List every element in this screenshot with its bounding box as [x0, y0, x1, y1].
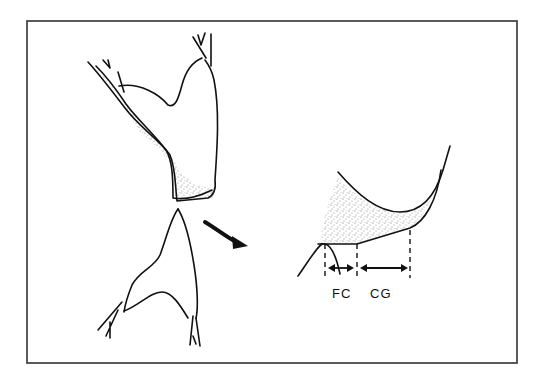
fc-label: FC	[332, 286, 351, 301]
upper-tooth	[88, 33, 218, 201]
lower-inner-curve	[124, 292, 188, 318]
lower-left-root	[98, 302, 122, 338]
cg-label: CG	[370, 286, 392, 301]
fc-dimension	[328, 264, 354, 272]
upper-crown-outline	[119, 58, 202, 106]
curved-arrow	[205, 222, 248, 249]
cg-dimension	[360, 264, 408, 272]
lower-crown-outline	[124, 209, 178, 312]
lower-tooth	[98, 209, 200, 346]
magnified-contact-detail	[298, 146, 450, 280]
figure-frame	[27, 21, 517, 363]
lower-right-outline	[178, 209, 197, 318]
lower-right-root	[190, 316, 200, 346]
upper-stippled-layer	[90, 63, 215, 200]
diagram-figure: FC CG	[0, 0, 539, 379]
upper-inner-outline	[96, 66, 212, 199]
